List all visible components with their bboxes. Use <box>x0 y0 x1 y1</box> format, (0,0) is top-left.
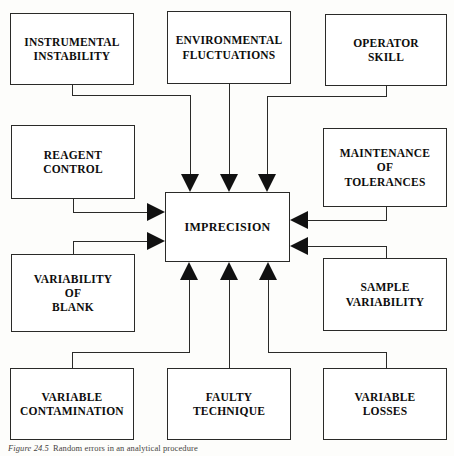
node-operator-skill-label: OPERATOR SKILL <box>353 36 419 64</box>
node-variability-of-blank[interactable]: VARIABILITY OF BLANK <box>11 254 135 332</box>
node-environmental-fluctuations[interactable]: ENVIRONMENTAL FLUCTUATIONS <box>167 11 291 84</box>
node-maintenance-of-tolerances-label: MAINTENANCE OF TOLERANCES <box>340 146 430 188</box>
connector-sample-variability <box>308 246 386 258</box>
node-imprecision[interactable]: IMPRECISION <box>165 192 290 262</box>
figure-caption-text: Random errors in an analytical procedure <box>53 443 198 453</box>
node-variable-losses-label: VARIABLE LOSSES <box>355 390 416 418</box>
node-variability-of-blank-label: VARIABILITY OF BLANK <box>34 272 113 314</box>
arrowhead-up-1 <box>180 262 198 280</box>
node-variable-losses[interactable]: VARIABLE LOSSES <box>323 368 447 440</box>
arrowhead-right-2 <box>147 232 165 250</box>
node-sample-variability[interactable]: SAMPLE VARIABILITY <box>323 258 447 331</box>
figure-canvas: IMPRECISION INSTRUMENTAL INSTABILITY ENV… <box>0 0 454 456</box>
arrowhead-left-1 <box>290 211 308 229</box>
node-environmental-fluctuations-label: ENVIRONMENTAL FLUCTUATIONS <box>176 33 283 61</box>
figure-caption-number: Figure 24.5 <box>8 443 49 453</box>
arrowhead-left-2 <box>290 237 308 255</box>
node-faulty-technique[interactable]: FAULTY TECHNIQUE <box>167 368 291 440</box>
node-instrumental-instability-label: INSTRUMENTAL INSTABILITY <box>24 35 119 63</box>
node-reagent-control[interactable]: REAGENT CONTROL <box>11 125 135 199</box>
node-sample-variability-label: SAMPLE VARIABILITY <box>346 280 425 308</box>
arrowhead-down-1 <box>181 174 199 192</box>
node-maintenance-of-tolerances[interactable]: MAINTENANCE OF TOLERANCES <box>323 128 447 207</box>
connector-reagent-control <box>73 199 147 212</box>
arrowhead-down-2 <box>220 174 238 192</box>
node-variable-contamination-label: VARIABLE CONTAMINATION <box>20 390 124 418</box>
arrowhead-right-1 <box>147 203 165 221</box>
node-reagent-control-label: REAGENT CONTROL <box>43 148 103 176</box>
arrowhead-up-3 <box>259 262 277 280</box>
node-operator-skill[interactable]: OPERATOR SKILL <box>325 14 447 86</box>
figure-caption: Figure 24.5Random errors in an analytica… <box>8 443 448 453</box>
node-faulty-technique-label: FAULTY TECHNIQUE <box>193 390 265 418</box>
connector-variability-of-blank <box>73 241 147 254</box>
node-variable-contamination[interactable]: VARIABLE CONTAMINATION <box>10 368 134 440</box>
connector-maintenance-of-tolerances <box>308 207 386 220</box>
arrowhead-down-3 <box>258 174 276 192</box>
node-imprecision-label: IMPRECISION <box>185 220 271 235</box>
node-instrumental-instability[interactable]: INSTRUMENTAL INSTABILITY <box>10 13 134 85</box>
arrowhead-up-2 <box>220 262 238 280</box>
